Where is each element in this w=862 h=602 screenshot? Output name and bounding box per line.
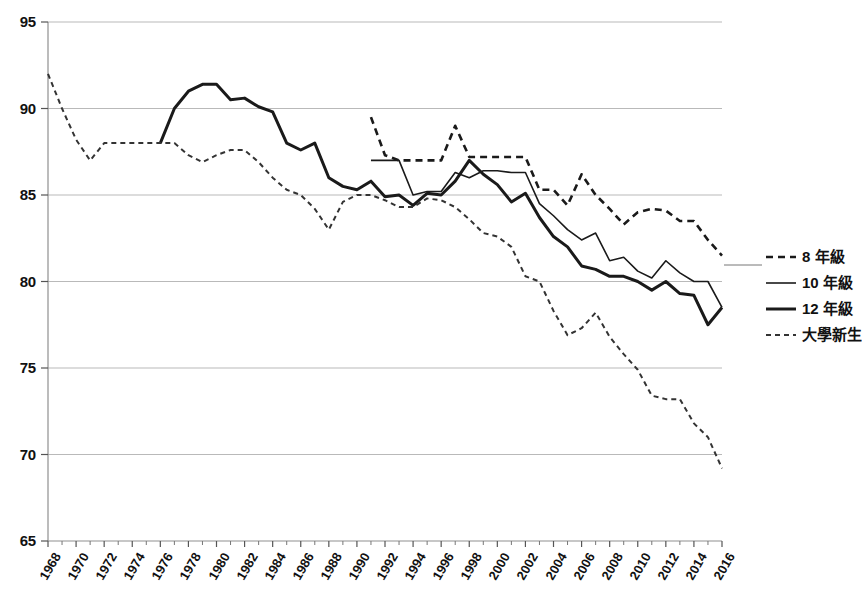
legend-swatch-icon — [766, 275, 796, 287]
legend-item-3[interactable]: 大學新生 — [766, 321, 862, 345]
series-line-2 — [160, 84, 722, 324]
series-line-0 — [371, 117, 722, 255]
legend-swatch-icon — [766, 301, 796, 313]
y-tick-label: 70 — [2, 446, 36, 463]
y-tick-label: 95 — [2, 13, 36, 30]
legend-swatch-icon — [766, 327, 796, 339]
y-tick-label: 85 — [2, 186, 36, 203]
y-tick-label: 65 — [2, 532, 36, 549]
legend-label: 大學新生 — [802, 323, 862, 344]
gridlines — [48, 22, 722, 455]
legend-label: 8 年級 — [802, 245, 845, 266]
y-tick-label: 75 — [2, 359, 36, 376]
legend-item-1[interactable]: 10 年級 — [766, 269, 853, 293]
data-series — [48, 74, 722, 468]
series-line-3 — [48, 74, 722, 468]
legend-item-0[interactable]: 8 年級 — [766, 243, 845, 267]
y-tick-label: 90 — [2, 100, 36, 117]
legend-label: 10 年級 — [802, 271, 853, 292]
legend-label: 12 年級 — [802, 297, 853, 318]
legend-item-2[interactable]: 12 年級 — [766, 295, 853, 319]
axis-ticks — [41, 22, 722, 547]
y-tick-label: 80 — [2, 273, 36, 290]
legend-swatch-icon — [766, 249, 796, 261]
